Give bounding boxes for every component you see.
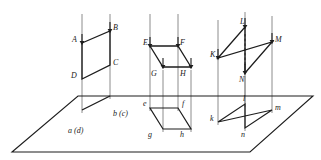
vertex-label-K: K (210, 51, 215, 59)
vertex-label-e: e (143, 100, 147, 108)
parallelogram-EFGH (150, 46, 191, 67)
projection-segment-ad-bc (82, 96, 110, 110)
vertex-label-L: L (240, 18, 244, 26)
vertex-label-N: N (239, 76, 244, 84)
vertex-label-l: l (243, 95, 245, 103)
projection-parallelogram-klmn (218, 104, 272, 128)
vertex-label-k: k (210, 115, 214, 123)
diagram-root: ABCDa (d)b (c)EFGHefghKLMNklmn (0, 0, 321, 160)
vertex-label-bc: b (c) (113, 110, 128, 118)
vertex-label-D: D (71, 72, 77, 80)
projection-diagram (0, 0, 321, 160)
vertex-label-M: M (275, 36, 282, 44)
vertex-label-F: F (180, 39, 185, 47)
vertex-label-G: G (151, 70, 157, 78)
vertex-label-m: m (275, 104, 281, 112)
vertex-label-n: n (241, 131, 245, 139)
vertex-label-h: h (180, 131, 184, 139)
vertex-label-B: B (113, 24, 118, 32)
vertex-label-f: f (182, 100, 184, 108)
parallelogram-ABCD (82, 31, 110, 79)
vertex-label-C: C (113, 59, 118, 67)
vertex-label-g: g (148, 131, 152, 139)
vertex-label-H: H (180, 70, 186, 78)
vertex-label-ad: a (d) (68, 127, 83, 135)
vertex-label-A: A (72, 36, 77, 44)
vertex-label-E: E (143, 39, 148, 47)
projection-parallelogram-efgh (150, 108, 191, 129)
